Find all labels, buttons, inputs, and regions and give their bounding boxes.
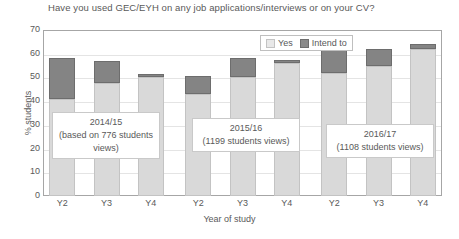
bar-segment-intend-to: [138, 74, 164, 78]
bar-segment-intend-to: [366, 49, 392, 66]
legend-swatch-yes-icon: [266, 39, 275, 48]
x-axis-title: Year of study: [0, 214, 459, 224]
y-axis-title: % students: [23, 78, 33, 148]
annotation-subtitle: (1108 students views): [331, 141, 429, 154]
y-tick-10: 10: [14, 166, 40, 176]
bar-segment-yes: [410, 49, 436, 196]
annotation-subtitle: (1199 students views): [197, 135, 295, 148]
x-tick-Y3-2: Y3: [364, 198, 394, 208]
x-axis-tick-labels: Y2Y3Y4Y2Y3Y4Y2Y3Y4: [43, 198, 442, 212]
annotation-subtitle: (based on 776 students: [57, 129, 155, 142]
annotation-title: 2015/16: [197, 122, 295, 135]
annotation-box-2016-17: 2016/17 (1108 students views): [326, 124, 434, 158]
x-tick-Y2-2: Y2: [319, 198, 349, 208]
legend-label-yes: Yes: [278, 38, 293, 48]
x-tick-Y3-0: Y3: [92, 198, 122, 208]
bar-segment-intend-to: [185, 76, 211, 94]
annotation-box-2015-16: 2015/16 (1199 students views): [192, 118, 300, 152]
x-tick-Y4-1: Y4: [272, 198, 302, 208]
bar-segment-intend-to: [94, 61, 120, 84]
bar-Y2-2016/17: [321, 30, 347, 196]
x-tick-Y4-0: Y4: [136, 198, 166, 208]
annotation-subtitle-2: views): [57, 142, 155, 155]
legend-swatch-intend-to-icon: [300, 39, 309, 48]
y-tick-70: 70: [14, 24, 40, 34]
y-tick-30: 30: [14, 119, 40, 129]
x-tick-Y3-1: Y3: [228, 198, 258, 208]
annotation-title: 2016/17: [331, 128, 429, 141]
bar-Y2-2015/16: [185, 30, 211, 196]
y-tick-0: 0: [14, 190, 40, 200]
legend-item-intend-to: Intend to: [300, 38, 347, 48]
legend-item-yes: Yes: [266, 38, 293, 48]
bar-segment-intend-to: [410, 44, 436, 49]
y-tick-20: 20: [14, 143, 40, 153]
chart-legend: Yes Intend to: [260, 35, 353, 51]
y-axis: % students 706050403020100: [10, 30, 40, 196]
chart-title: Have you used GEC/EYH on any job applica…: [48, 2, 418, 13]
chart-container: Have you used GEC/EYH on any job applica…: [0, 0, 459, 239]
bar-Y3-2016/17: [366, 30, 392, 196]
annotation-box-2014-15: 2014/15 (based on 776 students views): [52, 112, 160, 159]
y-tick-50: 50: [14, 71, 40, 81]
x-tick-Y2-1: Y2: [183, 198, 213, 208]
bar-Y4-2015/16: [274, 30, 300, 196]
bar-segment-intend-to: [49, 58, 75, 98]
bar-Y4-2016/17: [410, 30, 436, 196]
legend-label-intend-to: Intend to: [312, 38, 347, 48]
x-tick-Y2-0: Y2: [47, 198, 77, 208]
y-tick-60: 60: [14, 48, 40, 58]
bar-segment-intend-to: [230, 58, 256, 77]
x-tick-Y4-2: Y4: [408, 198, 438, 208]
annotation-title: 2014/15: [57, 116, 155, 129]
bar-Y3-2015/16: [230, 30, 256, 196]
bar-segment-intend-to: [274, 60, 300, 64]
y-tick-40: 40: [14, 95, 40, 105]
